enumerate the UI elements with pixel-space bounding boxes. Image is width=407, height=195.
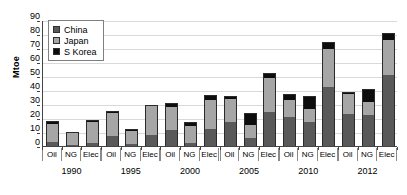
x-axis-tick-mark [279, 147, 280, 150]
bar-segment-korea [322, 42, 335, 49]
x-axis-fuel-label-elec: Elec [377, 148, 397, 161]
y-axis-tick-mark [37, 21, 40, 22]
bar-segment-japan [382, 40, 395, 75]
legend-item-japan: Japan [53, 35, 97, 46]
x-axis: OilNGElecOilNGElecOilNGElecOilNGElecOilN… [42, 147, 397, 195]
bar-segment-china [244, 138, 257, 146]
y-axis-tick-label: 70 [18, 44, 40, 45]
bar-1995-elec [145, 105, 158, 146]
y-axis-tick-label: 0 [18, 142, 40, 143]
bar-segment-china [145, 135, 158, 146]
x-axis-fuel-label-ng: NG [62, 148, 82, 161]
x-axis-fuel-label-oil: Oil [279, 148, 299, 161]
x-axis-tick-mark [42, 147, 43, 150]
bar-2010-elec [322, 42, 335, 146]
x-axis-tick-mark [318, 147, 319, 150]
x-axis-fuel-label-oil: Oil [42, 148, 62, 161]
bar-segment-japan [66, 133, 79, 145]
legend-label-china: China [64, 25, 88, 35]
y-axis-tick-label: 50 [18, 72, 40, 73]
legend: China Japan S Korea [48, 20, 104, 61]
legend-item-skorea: S Korea [53, 46, 97, 57]
bar-segment-china [165, 130, 178, 146]
x-axis-fuel-label-ng: NG [358, 148, 378, 161]
y-axis-tick-mark [37, 77, 40, 78]
x-axis-year-label-1990: 1990 [42, 164, 101, 178]
bar-1995-ng [125, 129, 138, 146]
x-axis-tick-mark [298, 147, 299, 150]
bar-segment-china [362, 115, 375, 147]
y-axis-tick-label: 10 [18, 128, 40, 129]
x-axis-fuel-label-elec: Elec [81, 148, 101, 161]
x-axis-fuel-label-elec: Elec [318, 148, 338, 161]
bar-segment-japan [244, 125, 257, 138]
bar-2005-ng [244, 113, 257, 146]
bar-segment-korea [362, 89, 375, 102]
x-axis-tick-mark [220, 147, 221, 150]
bar-segment-japan [263, 78, 276, 112]
x-axis-tick-mark [239, 147, 240, 150]
y-axis-tick-label: 90 [18, 16, 40, 17]
bar-segment-china [46, 142, 59, 146]
x-axis-fuel-label-elec: Elec [259, 148, 279, 161]
bar-segment-japan [165, 107, 178, 130]
bar-2012-elec [382, 33, 395, 146]
bar-segment-china [382, 75, 395, 146]
bar-segment-china [263, 112, 276, 146]
x-axis-tick-mark [200, 147, 201, 150]
y-axis-tick-mark [37, 49, 40, 50]
bar-segment-china [184, 143, 197, 147]
bar-segment-china [66, 145, 79, 146]
y-axis-tick-mark [37, 63, 40, 64]
bar-segment-japan [322, 49, 335, 86]
bar-1995-oil [106, 111, 119, 146]
x-axis-tick-mark [377, 147, 378, 150]
bar-segment-china [283, 117, 296, 146]
x-axis-tick-mark [180, 147, 181, 150]
bar-segment-china [125, 144, 138, 146]
bar-segment-japan [125, 131, 138, 144]
x-axis-year-label-2012: 2012 [338, 164, 397, 178]
x-axis-fuel-label-ng: NG [239, 148, 259, 161]
bar-2010-ng [303, 96, 316, 146]
legend-swatch-china-icon [53, 26, 60, 33]
bar-segment-china [86, 143, 99, 146]
x-axis-year-label-2000: 2000 [160, 164, 219, 178]
y-axis-tick-label: 30 [18, 100, 40, 101]
bar-segment-japan [342, 94, 355, 114]
x-axis-fuel-label-oil: Oil [101, 148, 121, 161]
x-axis-year-label-2010: 2010 [279, 164, 338, 178]
x-axis-fuel-label-oil: Oil [160, 148, 180, 161]
x-axis-tick-mark [121, 147, 122, 150]
x-axis-tick-mark [358, 147, 359, 150]
bar-segment-japan [362, 102, 375, 115]
legend-item-china: China [53, 24, 97, 35]
bar-segment-china [342, 114, 355, 146]
bar-segment-japan [224, 99, 237, 121]
y-axis-tick-mark [37, 105, 40, 106]
bar-2012-oil [342, 92, 355, 146]
stacked-bar-chart: Mtoe 0102030405060708090 China Japan S K… [0, 0, 407, 195]
bar-2000-ng [184, 122, 197, 146]
bar-segment-japan [86, 122, 99, 143]
y-axis-tick-label: 20 [18, 114, 40, 115]
bar-segment-japan [184, 126, 197, 142]
bar-segment-japan [46, 124, 59, 142]
bar-segment-korea [303, 96, 316, 109]
y-axis-tick-mark [37, 35, 40, 36]
bar-2005-oil [224, 96, 237, 146]
y-axis-tick-mark [37, 119, 40, 120]
bar-segment-china [106, 136, 119, 146]
x-axis-tick-mark [141, 147, 142, 150]
bar-segment-japan [283, 100, 296, 118]
y-axis: 0102030405060708090 [0, 21, 40, 147]
bar-2000-elec [204, 95, 217, 146]
x-axis-fuel-label-elec: Elec [141, 148, 161, 161]
x-axis-tick-mark [160, 147, 161, 150]
bar-segment-china [204, 129, 217, 146]
bar-segment-japan [106, 113, 119, 136]
x-axis-tick-mark [259, 147, 260, 150]
bar-segment-japan [145, 106, 158, 135]
y-axis-tick-label: 60 [18, 58, 40, 59]
x-axis-tick-mark [397, 147, 398, 150]
